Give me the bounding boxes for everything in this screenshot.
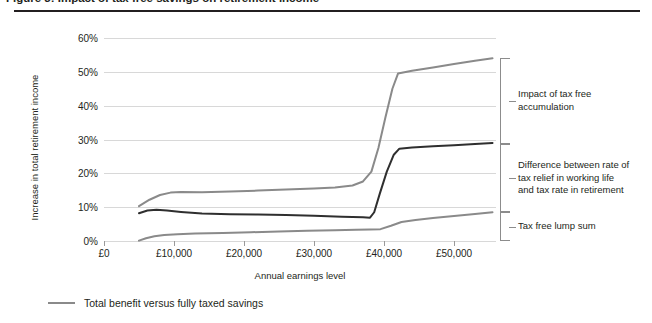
x-tick-label: £50,000 bbox=[409, 248, 499, 259]
y-tick-label: 50% bbox=[46, 66, 98, 77]
y-tick-label: 20% bbox=[46, 168, 98, 179]
header-divider bbox=[14, 10, 640, 12]
legend-label: Total benefit versus fully taxed savings bbox=[84, 297, 263, 309]
bracket-label-rate-difference: Difference between rate oftax relief in … bbox=[518, 159, 652, 197]
bracket-stem-accumulation bbox=[509, 101, 516, 102]
x-tick-mark bbox=[244, 241, 245, 246]
gridline-y bbox=[104, 241, 496, 242]
x-tick-mark bbox=[384, 241, 385, 246]
y-tick-label: 40% bbox=[46, 100, 98, 111]
y-tick-label: 10% bbox=[46, 202, 98, 213]
bracket-label-line: accumulation bbox=[518, 101, 652, 114]
bracket-label-line: Tax free lump sum bbox=[518, 220, 652, 233]
figure-title-clip: Figure 3: Impact of tax free savings on … bbox=[0, 0, 652, 8]
y-axis-title: Increase in total retirement income bbox=[29, 28, 40, 268]
y-tick-label: 0% bbox=[46, 236, 98, 247]
x-tick-mark bbox=[314, 241, 315, 246]
bracket-label-line: Impact of tax free bbox=[518, 88, 652, 101]
legend: Total benefit versus fully taxed savings bbox=[48, 297, 263, 309]
figure-container: Figure 3: Impact of tax free savings on … bbox=[0, 0, 652, 323]
series-lines bbox=[104, 38, 496, 241]
x-tick-mark bbox=[174, 241, 175, 246]
bracket-label-accumulation: Impact of tax freeaccumulation bbox=[518, 88, 652, 113]
figure-title: Figure 3: Impact of tax free savings on … bbox=[6, 0, 319, 4]
y-axis-ticks: 0%10%20%30%40%50%60% bbox=[42, 38, 98, 241]
x-tick-mark bbox=[104, 241, 105, 246]
bracket-label-line: tax relief in working life bbox=[518, 172, 652, 185]
bracket-stem-rate-difference bbox=[509, 178, 516, 179]
y-tick-label: 30% bbox=[46, 134, 98, 145]
bracket-stem-lump-sum bbox=[509, 227, 516, 228]
y-tick-label: 60% bbox=[46, 33, 98, 44]
bracket-label-lump-sum: Tax free lump sum bbox=[518, 220, 652, 233]
legend-swatch-icon bbox=[48, 302, 75, 304]
bracket-label-line: Difference between rate of bbox=[518, 159, 652, 172]
bracket-label-line: and tax rate in retirement bbox=[518, 184, 652, 197]
series-line-0 bbox=[139, 58, 493, 206]
x-axis-title: Annual earnings level bbox=[104, 270, 496, 281]
x-tick-mark bbox=[454, 241, 455, 246]
series-line-1 bbox=[139, 143, 493, 218]
